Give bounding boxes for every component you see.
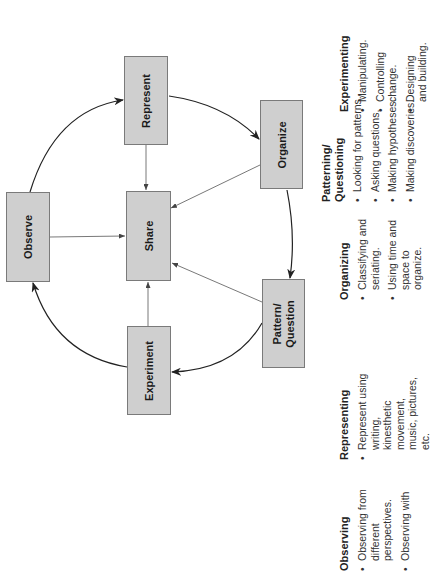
arrow-experiment-to-observe [33, 283, 127, 367]
node-label: Observe [22, 215, 35, 259]
arrow-observe-to-represent [30, 100, 123, 192]
column-heading: Patterning/ Questioning [320, 132, 346, 202]
link-observe-share [50, 236, 125, 237]
column-representing: Representing Represent using writing, ki… [338, 350, 434, 460]
bullet-item: Classifying and seriating. [356, 218, 381, 300]
column-heading: Representing [338, 350, 351, 460]
column-heading: Organizing [338, 205, 351, 300]
bullet-item: Represent using writing, kinesthetic mov… [356, 370, 431, 460]
node-label: Organize [275, 121, 288, 168]
column-organizing: Organizing Classifying and seriating. Us… [338, 205, 429, 300]
column-patterning-questioning: Patterning/ Questioning Looking for patt… [320, 92, 421, 202]
link-organize-share [171, 165, 260, 208]
node-pattern-question: Pattern/ Question [262, 279, 305, 368]
bullet-item: Observing with [399, 461, 412, 571]
node-observe: Observe [6, 192, 50, 282]
node-represent: Represent [124, 56, 168, 145]
bullet-item: Using time and space to organize. [386, 208, 424, 300]
bullet-item: Making hypotheses. [386, 92, 399, 202]
node-label: Represent [140, 74, 153, 128]
node-label: Share [142, 221, 155, 252]
node-label: Experiment [143, 341, 156, 401]
arrow-organize-to-pattern [287, 190, 292, 278]
node-share: Share [126, 191, 171, 281]
column-observing: Observing Observing from different persp… [338, 461, 416, 571]
column-heading: Observing [338, 461, 351, 571]
link-pattern-share [172, 263, 262, 302]
bullet-item: Making discoveries. [404, 92, 417, 202]
bullet-item: Observing from different perspectives. [356, 483, 394, 571]
node-label: Pattern/ Question [271, 294, 297, 354]
arrow-represent-to-organize [169, 96, 259, 139]
node-experiment: Experiment [127, 326, 171, 415]
bullet-item: Looking for patterns. [351, 92, 364, 202]
bullet-item: Asking questions. [369, 92, 382, 202]
arrow-pattern-to-experiment [172, 323, 262, 372]
node-organize: Organize [260, 100, 303, 189]
